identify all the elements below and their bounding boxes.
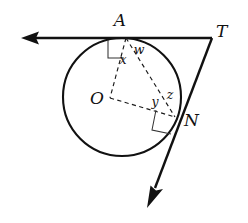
point-label-a: A [112,10,126,30]
angle-label-y: y [150,94,159,109]
angle-label-z: z [166,87,174,102]
angle-label-x: x [119,52,126,67]
tangent-circle-diagram: A T N O x w y z [0,0,248,223]
geometry-figure-canvas: A T N O x w y z [0,0,248,223]
point-label-n: N [183,110,200,130]
point-label-t: T [216,21,229,41]
angle-label-w: w [134,42,145,57]
point-label-o: O [90,88,104,108]
